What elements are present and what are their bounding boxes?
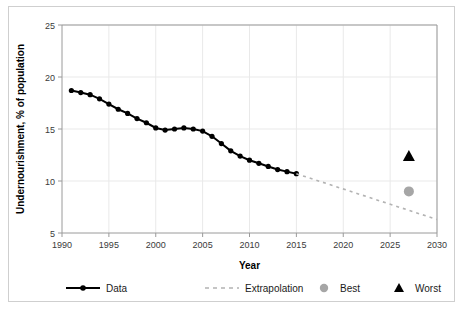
data-point [238, 153, 243, 158]
x-tick-label: 1995 [99, 240, 119, 250]
data-point [228, 148, 233, 153]
data-point [172, 126, 177, 131]
x-axis-title: Year [239, 260, 260, 271]
data-point [106, 101, 111, 106]
marker-worst [403, 150, 415, 161]
data-point [256, 161, 261, 166]
legend-label-extrapolation: Extrapolation [245, 283, 303, 294]
legend-marker-worst [394, 283, 404, 292]
legend-marker-best [320, 284, 328, 292]
x-tick-label: 2010 [239, 240, 259, 250]
data-point [200, 128, 205, 133]
legend-label-worst: Worst [415, 283, 441, 294]
data-point [153, 125, 158, 130]
y-tick-label: 25 [45, 21, 55, 31]
legend-label-best: Best [340, 283, 360, 294]
series-line-data [71, 91, 296, 174]
y-tick-label: 15 [45, 125, 55, 135]
data-point [125, 111, 130, 116]
y-axis-title: Undernourishment, % of population [15, 44, 26, 214]
data-point [181, 125, 186, 130]
data-point [97, 96, 102, 101]
data-point [275, 167, 280, 172]
chart-figure: 5101520251990199520002005201020152020202… [0, 0, 465, 310]
y-tick-label: 20 [45, 73, 55, 83]
data-point [88, 92, 93, 97]
x-tick-label: 2025 [380, 240, 400, 250]
data-point [219, 141, 224, 146]
data-point [116, 107, 121, 112]
data-point [209, 134, 214, 139]
data-point [266, 164, 271, 169]
y-tick-label: 5 [50, 229, 55, 239]
data-point [284, 169, 289, 174]
data-point [163, 127, 168, 132]
data-point [144, 120, 149, 125]
data-point [191, 126, 196, 131]
data-point [69, 88, 74, 93]
data-point [78, 90, 83, 95]
marker-best [404, 186, 414, 196]
y-tick-label: 10 [45, 177, 55, 187]
x-tick-label: 2020 [333, 240, 353, 250]
legend-marker-data-dot [80, 285, 86, 291]
x-tick-label: 2005 [193, 240, 213, 250]
data-point [247, 158, 252, 163]
x-tick-label: 2030 [427, 240, 447, 250]
x-tick-label: 2015 [286, 240, 306, 250]
legend-label-data: Data [106, 283, 128, 294]
chart-canvas: 5101520251990199520002005201020152020202… [0, 0, 465, 310]
x-tick-label: 1990 [52, 240, 72, 250]
data-point [134, 116, 139, 121]
x-tick-label: 2000 [146, 240, 166, 250]
